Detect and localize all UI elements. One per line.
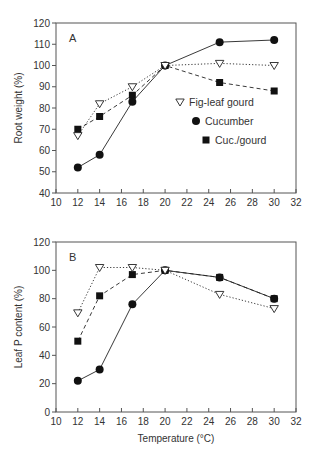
y-tick-label: 20 (39, 378, 51, 389)
y-tick-label: 120 (33, 18, 50, 29)
y-tick-label: 70 (39, 124, 51, 135)
square-marker (271, 295, 278, 302)
panel-letter: A (69, 32, 77, 44)
circle-marker (192, 117, 200, 125)
triangle-down-marker (215, 291, 223, 298)
x-tick-label: 20 (160, 197, 172, 208)
square-marker (96, 292, 103, 299)
x-tick-label: 16 (116, 197, 128, 208)
x-tick-label: 28 (247, 197, 259, 208)
triangle-down-marker (95, 101, 103, 108)
x-tick-label: 22 (181, 197, 193, 208)
x-tick-label: 10 (50, 197, 62, 208)
x-tick-label: 30 (269, 416, 281, 427)
triangle-down-marker (128, 84, 136, 91)
plot-frame (56, 23, 296, 193)
panel-a-root-weight: 1012141618202224262830324050607080901001… (13, 18, 302, 209)
square-marker (271, 88, 278, 95)
y-tick-label: 100 (33, 60, 50, 71)
x-tick-label: 18 (138, 197, 150, 208)
y-tick-label: 110 (34, 39, 50, 50)
triangle-down-marker (176, 99, 184, 106)
legend-label: Cuc./gourd (215, 134, 267, 146)
x-tick-label: 14 (94, 197, 106, 208)
legend: Fig-leaf gourdCucumberCuc./gourd (176, 96, 267, 146)
panel-letter: B (69, 251, 76, 263)
square-marker (129, 92, 136, 99)
circle-marker (96, 151, 104, 159)
triangle-down-marker (74, 310, 82, 317)
y-tick-label: 60 (39, 145, 51, 156)
circle-marker (74, 164, 82, 172)
triangle-down-marker (215, 60, 223, 67)
square-marker (74, 126, 81, 133)
x-tick-label: 18 (138, 416, 150, 427)
x-tick-label: 20 (160, 416, 172, 427)
square-marker (74, 338, 81, 345)
x-tick-label: 24 (203, 416, 215, 427)
legend-label: Fig-leaf gourd (189, 96, 254, 108)
x-tick-label: 26 (225, 197, 237, 208)
x-tick-label: 26 (225, 416, 237, 427)
circle-marker (270, 36, 278, 44)
y-tick-label: 120 (33, 237, 50, 248)
triangle-down-marker (128, 265, 136, 272)
x-tick-label: 32 (290, 197, 302, 208)
x-tick-label: 16 (116, 416, 128, 427)
circle-marker (128, 300, 136, 308)
square-marker (203, 137, 210, 144)
y-tick-label: 100 (33, 265, 50, 276)
x-tick-label: 30 (269, 197, 281, 208)
x-tick-label: 12 (72, 197, 84, 208)
figure: 1012141618202224262830324050607080901001… (0, 0, 322, 460)
circle-marker (216, 38, 224, 46)
x-tick-label: 28 (247, 416, 259, 427)
series-line (78, 270, 274, 341)
y-tick-label: 50 (39, 166, 51, 177)
x-tick-label: 10 (50, 416, 62, 427)
triangle-down-marker (270, 306, 278, 313)
plot-frame (56, 242, 296, 412)
x-tick-label: 22 (181, 416, 193, 427)
series-line (78, 268, 274, 313)
y-tick-label: 0 (44, 407, 50, 418)
circle-marker (96, 366, 104, 374)
x-tick-label: 14 (94, 416, 106, 427)
y-tick-label: 80 (39, 293, 51, 304)
square-marker (96, 113, 103, 120)
y-tick-label: 90 (39, 81, 51, 92)
legend-label: Cucumber (205, 115, 254, 127)
y-axis-title: Leaf P content (%) (13, 286, 24, 369)
x-tick-label: 24 (203, 197, 215, 208)
panel-b-leaf-p-content: 101214161820222426283032020406080100120L… (13, 237, 302, 445)
triangle-down-marker (95, 265, 103, 272)
x-tick-label: 12 (72, 416, 84, 427)
x-axis-title: Temperature (°C) (138, 433, 215, 444)
triangle-down-marker (270, 63, 278, 70)
y-tick-label: 80 (39, 103, 51, 114)
y-axis-title: Root weight (%) (13, 72, 24, 143)
square-marker (216, 79, 223, 86)
square-marker (216, 274, 223, 281)
circle-marker (128, 98, 136, 106)
triangle-down-marker (74, 133, 82, 140)
y-tick-label: 60 (39, 322, 51, 333)
x-tick-label: 32 (290, 416, 302, 427)
y-tick-label: 40 (39, 188, 51, 199)
circle-marker (74, 377, 82, 385)
y-tick-label: 40 (39, 350, 51, 361)
